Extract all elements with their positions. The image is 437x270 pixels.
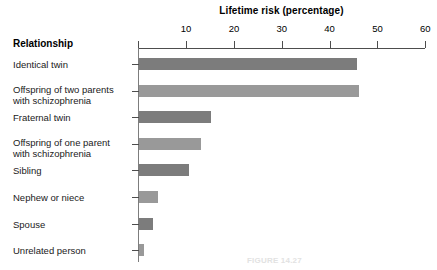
bar-row: Nephew or niece: [0, 191, 437, 205]
figure-caption: FIGURE 14.27: [247, 256, 302, 265]
bar-category-label: Identical twin: [13, 59, 68, 71]
y-axis-tick: [132, 250, 139, 251]
x-axis-tick: [330, 41, 331, 48]
bar: [139, 85, 359, 97]
y-axis-tick: [132, 224, 139, 225]
y-axis-tick: [132, 170, 139, 171]
bar-category-label: Unrelated person: [13, 245, 86, 257]
bar: [139, 111, 211, 123]
x-axis-tick: [425, 41, 426, 48]
x-axis-tick-label: 30: [277, 23, 288, 34]
bar-row: Fraternal twin: [0, 111, 437, 125]
y-axis-tick: [132, 117, 139, 118]
bar-row: Offspring of two parents with schizophre…: [0, 85, 437, 99]
bar-category-label: Nephew or niece: [13, 192, 84, 204]
x-axis-tick-labels: 102030405060: [0, 23, 437, 37]
x-axis-tick: [377, 41, 378, 48]
x-axis-line: [138, 48, 425, 49]
bar-category-label: Sibling: [13, 165, 42, 177]
x-axis-tick-label: 10: [181, 23, 192, 34]
bar-row: Identical twin: [0, 58, 437, 72]
bar-category-label: Spouse: [13, 219, 45, 231]
bar: [139, 218, 153, 230]
x-axis-tick-label: 50: [372, 23, 383, 34]
figure-chart: Lifetime risk (percentage) Relationship …: [0, 0, 437, 270]
bar: [139, 138, 201, 150]
bar-category-label: Fraternal twin: [13, 112, 71, 124]
bar-row: Sibling: [0, 164, 437, 178]
bar-category-label: Offspring of one parent with schizophren…: [13, 137, 110, 160]
x-axis-tick: [186, 41, 187, 48]
category-column-header: Relationship: [13, 38, 73, 49]
y-axis-tick: [132, 64, 139, 65]
x-axis-tick-label: 20: [229, 23, 240, 34]
x-axis-tick: [234, 41, 235, 48]
y-axis-tick: [132, 144, 139, 145]
bar: [139, 191, 158, 203]
x-axis-tick-label: 60: [420, 23, 431, 34]
chart-axis-title: Lifetime risk (percentage): [138, 5, 425, 16]
x-axis-tick: [282, 41, 283, 48]
x-axis-tick: [138, 41, 139, 48]
bar-row: Spouse: [0, 218, 437, 232]
bar: [139, 58, 357, 70]
bar: [139, 244, 144, 256]
bar-row: Unrelated person: [0, 244, 437, 258]
bar-row: Offspring of one parent with schizophren…: [0, 138, 437, 152]
y-axis-tick: [132, 91, 139, 92]
bar: [139, 164, 189, 176]
x-axis-tick-label: 40: [324, 23, 335, 34]
y-axis-tick: [132, 197, 139, 198]
bar-category-label: Offspring of two parents with schizophre…: [13, 84, 114, 107]
